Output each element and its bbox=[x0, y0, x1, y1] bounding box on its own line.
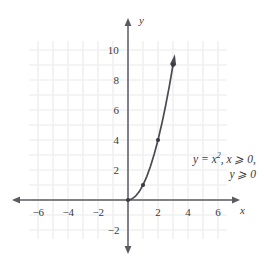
x-tick--6: −6 bbox=[32, 207, 44, 218]
x-tick-2: 2 bbox=[155, 207, 161, 218]
y-tick-8: 8 bbox=[113, 75, 119, 86]
x-tick--2: −2 bbox=[92, 207, 104, 218]
equation-annotation: y = x2, x ⩾ 0, y ⩾ 0 bbox=[152, 148, 256, 182]
graph-figure: −6−4−2246108642−2 x y y = x2, x ⩾ 0, y ⩾… bbox=[0, 0, 264, 264]
y-axis-label: y bbox=[139, 15, 144, 26]
annotation-equation-base: y = x bbox=[193, 153, 217, 165]
annotation-line-2: y ⩾ 0 bbox=[152, 167, 256, 182]
y-tick-4: 4 bbox=[113, 135, 119, 146]
coordinate-plane bbox=[0, 0, 264, 264]
annotation-line-1: y = x2, x ⩾ 0, bbox=[152, 148, 256, 167]
x-axis-label: x bbox=[240, 205, 245, 216]
x-tick-6: 6 bbox=[215, 207, 221, 218]
axis-lines bbox=[12, 18, 240, 254]
x-tick--4: −4 bbox=[62, 207, 74, 218]
y-tick-10: 10 bbox=[108, 45, 119, 56]
y-tick-2: 2 bbox=[113, 165, 119, 176]
annotation-domain-condition: , x ⩾ 0, bbox=[221, 153, 256, 165]
x-tick-4: 4 bbox=[185, 207, 191, 218]
y-tick-6: 6 bbox=[113, 105, 119, 116]
y-tick--2: −2 bbox=[108, 225, 120, 236]
